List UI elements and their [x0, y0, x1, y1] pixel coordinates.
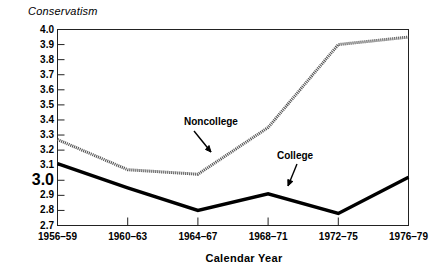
- x-tick-label: 1960–63: [88, 231, 168, 242]
- x-tick-label: 1968–71: [228, 231, 308, 242]
- x-tick-label: 1964–67: [158, 231, 238, 242]
- x-tick-label: 1972–75: [298, 231, 378, 242]
- series-label-noncollege: Noncollege: [184, 116, 238, 127]
- conservatism-line-chart: Conservatism 4.03.93.83.73.63.53.43.33.2…: [0, 0, 448, 275]
- x-axis-title: Calendar Year: [0, 252, 448, 264]
- x-tick-label: 1976–79: [369, 231, 448, 242]
- x-tick-label: 1956–59: [18, 231, 98, 242]
- x-axis-tick-labels: 1956–591960–631964–671968–711972–751976–…: [0, 0, 448, 275]
- series-label-college: College: [277, 150, 313, 161]
